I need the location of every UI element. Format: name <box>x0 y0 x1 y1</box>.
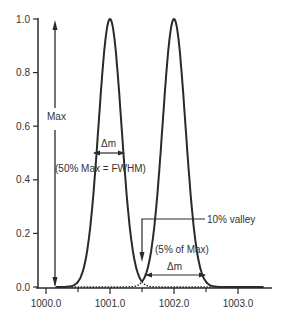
fwhm-dm-label: Δm <box>101 138 116 149</box>
y-tick-label: 0.4 <box>16 174 30 185</box>
y-tick-label: 0.2 <box>16 228 30 239</box>
valley-label: 10% valley <box>207 214 255 225</box>
chart-container: 0.00.20.40.60.81.01000.01001.01002.01003… <box>0 0 283 321</box>
peak-1-tail-dotted <box>142 282 212 287</box>
valley-dm-label: Δm <box>167 261 182 272</box>
y-tick-label: 0.8 <box>16 67 30 78</box>
y-tick-label: 1.0 <box>16 14 30 25</box>
y-tick-label: 0.0 <box>16 282 30 293</box>
fwhm-label: (50% Max = FWHM) <box>55 163 146 174</box>
five-pct-label: (5% of Max) <box>155 244 209 255</box>
valley-arrow-icon <box>140 252 145 262</box>
mass-spectrum-resolution-chart: 0.00.20.40.60.81.01000.01001.01002.01003… <box>0 0 283 321</box>
x-tick-label: 1001.0 <box>95 298 126 309</box>
x-tick-label: 1000.0 <box>31 298 62 309</box>
arrow-down-icon <box>53 277 58 287</box>
arrow-up-icon <box>53 20 58 30</box>
x-tick-label: 1002.0 <box>159 298 190 309</box>
y-tick-label: 0.6 <box>16 121 30 132</box>
x-tick-label: 1003.0 <box>223 298 254 309</box>
peak-2-tail-dotted <box>72 282 142 287</box>
max-label: Max <box>47 111 66 122</box>
